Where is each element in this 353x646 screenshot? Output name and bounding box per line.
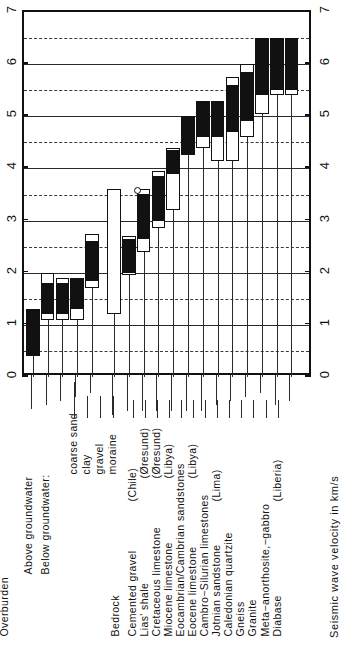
bar bbox=[70, 278, 84, 320]
bedrock-label: Jotnian sandstone bbox=[211, 544, 222, 636]
location-annotation: (Libya) bbox=[163, 443, 174, 478]
y-tick-label-left: 4 bbox=[5, 158, 18, 174]
y-tick-label-left: 5 bbox=[5, 106, 18, 122]
bedrock-label: Meta−anorthosite,−gabbro bbox=[260, 503, 271, 636]
label-connector bbox=[133, 400, 134, 418]
bar bbox=[41, 273, 55, 320]
bar bbox=[270, 38, 284, 95]
category-drop-line bbox=[232, 161, 233, 377]
category-drop-line bbox=[203, 148, 204, 377]
bar-range-typical bbox=[41, 283, 55, 314]
y-tick-label-left: 2 bbox=[5, 262, 18, 278]
axis-tick bbox=[305, 114, 311, 116]
location-annotation: (Libya) bbox=[187, 443, 198, 478]
gridline-major bbox=[24, 221, 309, 222]
bar-range-typical bbox=[122, 239, 136, 273]
category-drop-line bbox=[158, 228, 159, 377]
bar-range-typical bbox=[166, 150, 180, 173]
category-drop-line bbox=[173, 210, 174, 377]
bar-range-typical bbox=[255, 38, 269, 95]
category-drop-line bbox=[291, 95, 292, 377]
location-annotation: (Chile) bbox=[127, 467, 138, 501]
location-annotation: (Øresund) bbox=[139, 427, 150, 478]
axis-title: Seismic wave velocity in km/s bbox=[328, 476, 340, 638]
bar bbox=[226, 77, 240, 160]
category-drop-line bbox=[62, 320, 63, 377]
label-connector bbox=[181, 400, 182, 418]
y-tick-label-right: 6 bbox=[318, 54, 331, 70]
bar bbox=[107, 189, 121, 314]
bar-range-typical bbox=[226, 85, 240, 132]
label-connector bbox=[253, 400, 254, 418]
location-annotation: (Øresund) bbox=[151, 427, 162, 478]
bedrock-label: Gneiss bbox=[235, 601, 246, 636]
bar-range-typical bbox=[70, 278, 84, 309]
label-connector bbox=[205, 400, 206, 418]
category-drop-line bbox=[247, 137, 248, 377]
bar bbox=[196, 101, 210, 148]
bar bbox=[122, 236, 136, 275]
overburden-label: gravel bbox=[94, 443, 105, 474]
bedrock-label: Eocene limestone bbox=[187, 546, 198, 636]
plot-area bbox=[22, 10, 311, 375]
bar bbox=[85, 234, 99, 289]
y-tick-label-left: 7 bbox=[5, 2, 18, 18]
sublabel-above-groundwater: Above groundwater bbox=[23, 476, 34, 574]
bar-range-typical bbox=[85, 241, 99, 280]
bar-range-outer bbox=[107, 189, 121, 314]
bedrock-label: Cretaceous limestone bbox=[151, 526, 162, 636]
label-connector bbox=[113, 396, 114, 418]
bedrock-label: Caledonian quartzite bbox=[223, 532, 234, 636]
bar bbox=[26, 309, 40, 356]
y-tick-label-left: 6 bbox=[5, 54, 18, 70]
bar bbox=[211, 101, 225, 161]
axis-tick bbox=[305, 10, 311, 12]
axis-tick bbox=[305, 62, 311, 64]
sublabel-below-groundwater: Below groundwater: bbox=[40, 474, 51, 574]
bar bbox=[181, 116, 195, 155]
axis-tick bbox=[305, 219, 311, 221]
bar-range-typical bbox=[26, 309, 40, 356]
label-connector bbox=[157, 400, 158, 418]
y-tick-label-right: 3 bbox=[318, 210, 331, 226]
category-drop-line bbox=[277, 95, 278, 377]
y-tick-label-right: 7 bbox=[318, 2, 331, 18]
bedrock-label: Lias' shale bbox=[139, 582, 150, 636]
gridline-minor bbox=[24, 142, 309, 143]
label-connector bbox=[74, 382, 75, 418]
gridline-major bbox=[24, 273, 309, 274]
category-drop-line bbox=[129, 275, 130, 377]
overburden-label: clay bbox=[81, 454, 92, 474]
y-tick-label-right: 1 bbox=[318, 314, 331, 330]
category-drop-line bbox=[144, 252, 145, 377]
bar bbox=[285, 38, 299, 95]
bar-range-typical bbox=[56, 283, 70, 314]
axis-tick bbox=[305, 323, 311, 325]
axis-tick bbox=[22, 219, 28, 221]
bar-range-typical bbox=[285, 38, 299, 90]
category-label-block: Overburden Above groundwater Below groun… bbox=[0, 380, 353, 646]
bar-range-typical bbox=[240, 72, 254, 122]
overburden-label: moraine bbox=[107, 433, 118, 474]
label-connector bbox=[217, 400, 218, 418]
location-annotation: (Lima) bbox=[211, 469, 222, 501]
bar-range-typical bbox=[196, 101, 210, 138]
axis-tick bbox=[22, 114, 28, 116]
group-label-overburden: Overburden bbox=[0, 577, 9, 636]
bar bbox=[255, 38, 269, 114]
category-drop-line bbox=[77, 320, 78, 377]
group-label-bedrock: Bedrock bbox=[110, 595, 121, 636]
gridline-minor bbox=[24, 351, 309, 352]
gridline-minor bbox=[24, 247, 309, 248]
seismic-velocity-chart: 01234567 01234567 Overburden Above groun… bbox=[0, 0, 353, 646]
axis-tick bbox=[22, 166, 28, 168]
gridline-major bbox=[24, 116, 309, 117]
y-tick-label-right: 2 bbox=[318, 262, 331, 278]
category-drop-line bbox=[262, 114, 263, 377]
y-tick-label-right: 4 bbox=[318, 158, 331, 174]
category-drop-line bbox=[33, 356, 34, 377]
axis-tick bbox=[22, 271, 28, 273]
bar bbox=[240, 64, 254, 137]
gridline-major bbox=[24, 325, 309, 326]
bar bbox=[56, 278, 70, 320]
